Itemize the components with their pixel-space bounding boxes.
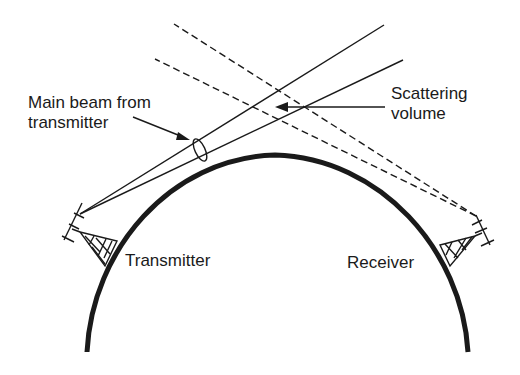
scattering-volume-label: Scattering volume	[391, 84, 468, 124]
scattering-volume-label-line1: Scattering	[391, 84, 468, 104]
scattering-volume-arrow	[275, 102, 385, 112]
troposcatter-diagram	[0, 0, 520, 375]
receiver-label: Receiver	[347, 253, 414, 273]
transmitter-label: Transmitter	[125, 251, 210, 271]
main-beam-label-line1: Main beam from	[28, 93, 151, 113]
transmitter-tower-icon	[62, 203, 117, 266]
beam-cross-section-icon	[190, 137, 209, 163]
scattering-volume-label-line2: volume	[391, 104, 468, 124]
main-beam-label: Main beam from transmitter	[28, 93, 151, 133]
main-beam-label-line2: transmitter	[28, 113, 151, 133]
receiver-tower-icon	[440, 215, 494, 266]
